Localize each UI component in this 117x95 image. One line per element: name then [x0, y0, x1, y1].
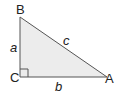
vertex-label-c: C [10, 70, 19, 85]
side-label-a: a [10, 40, 17, 55]
side-label-b: b [55, 79, 62, 94]
right-triangle-diagram: B C A a b c [0, 0, 117, 95]
side-label-c: c [63, 33, 70, 48]
vertex-label-a: A [105, 71, 114, 86]
vertex-label-b: B [16, 2, 25, 17]
